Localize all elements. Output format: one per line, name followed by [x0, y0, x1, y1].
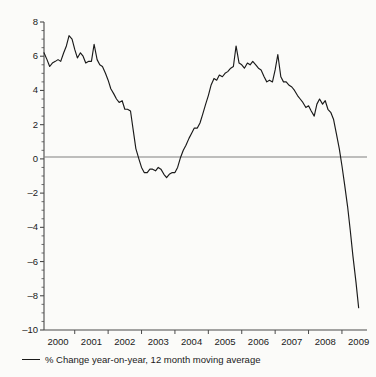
- y-axis-tick-label: 0: [6, 154, 38, 164]
- x-axis-tick-label: 2001: [81, 337, 102, 347]
- line-chart-plot: [0, 0, 376, 377]
- x-axis-tick-label: 2000: [47, 337, 68, 347]
- x-axis-tick-label: 2009: [348, 337, 369, 347]
- y-axis-tick-label: 4: [6, 86, 38, 96]
- x-axis-tick-label: 2004: [181, 337, 202, 347]
- x-axis-tick-label: 2003: [148, 337, 169, 347]
- y-axis-tick-label: –2: [6, 188, 38, 198]
- data-series-line: [44, 36, 359, 308]
- x-axis-tick-label: 2002: [114, 337, 135, 347]
- y-axis-tick-label: –6: [6, 257, 38, 267]
- y-axis-tick-label: 2: [6, 120, 38, 130]
- chart-figure: 86420–2–4–6–8–10 20002001200220032004200…: [0, 0, 376, 377]
- x-axis-tick-label: 2007: [281, 337, 302, 347]
- y-axis-tick-label: 8: [6, 17, 38, 27]
- x-axis-ticks: [75, 330, 342, 334]
- x-axis-tick-label: 2006: [248, 337, 269, 347]
- x-axis-tick-label: 2008: [315, 337, 336, 347]
- legend-line-swatch: [22, 359, 40, 360]
- x-axis-tick-label: 2005: [214, 337, 235, 347]
- legend-entry-label: % Change year-on-year, 12 month moving a…: [45, 355, 260, 365]
- y-axis-tick-label: –10: [6, 325, 38, 335]
- y-axis-tick-label: –4: [6, 223, 38, 233]
- y-axis-tick-label: 6: [6, 51, 38, 61]
- y-axis-tick-label: –8: [6, 291, 38, 301]
- chart-legend: % Change year-on-year, 12 month moving a…: [22, 355, 260, 365]
